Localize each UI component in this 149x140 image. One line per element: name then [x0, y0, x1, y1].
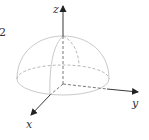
y-axis-hidden — [63, 84, 107, 89]
y-axis-label: y — [131, 97, 139, 110]
back-meridian-dashed — [63, 36, 79, 66]
x-axis-hidden — [50, 84, 63, 95]
hemisphere-diagram: z y x 2 — [0, 0, 149, 140]
side-label: 2 — [0, 26, 6, 39]
y-axis — [107, 89, 138, 92]
x-axis-label: x — [26, 118, 33, 131]
x-axis — [31, 95, 50, 115]
z-axis-label: z — [52, 3, 59, 16]
diagram-canvas: z y x 2 — [0, 0, 149, 140]
